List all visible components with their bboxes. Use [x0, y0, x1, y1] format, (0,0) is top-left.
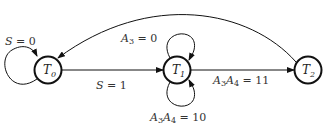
- label-s-equals-0: S = 0: [5, 35, 36, 48]
- label-a3a4-equals-11: A3A4 = 11: [212, 74, 269, 88]
- label-a3-equals-0: A3 = 0: [120, 32, 157, 46]
- state-diagram: T0 T1 T2 S = 0 S = 1 A3 = 0 A3A4 = 10 A3…: [0, 0, 326, 128]
- edge-t0-self-loop: [5, 47, 37, 85]
- label-a3a4-equals-10: A3A4 = 10: [149, 111, 206, 125]
- edge-t2-to-t0: [58, 15, 296, 62]
- node-t1: T1: [164, 57, 191, 84]
- label-s-equals-1: S = 1: [96, 79, 127, 92]
- node-t2: T2: [295, 57, 322, 84]
- node-t0: T0: [35, 57, 62, 84]
